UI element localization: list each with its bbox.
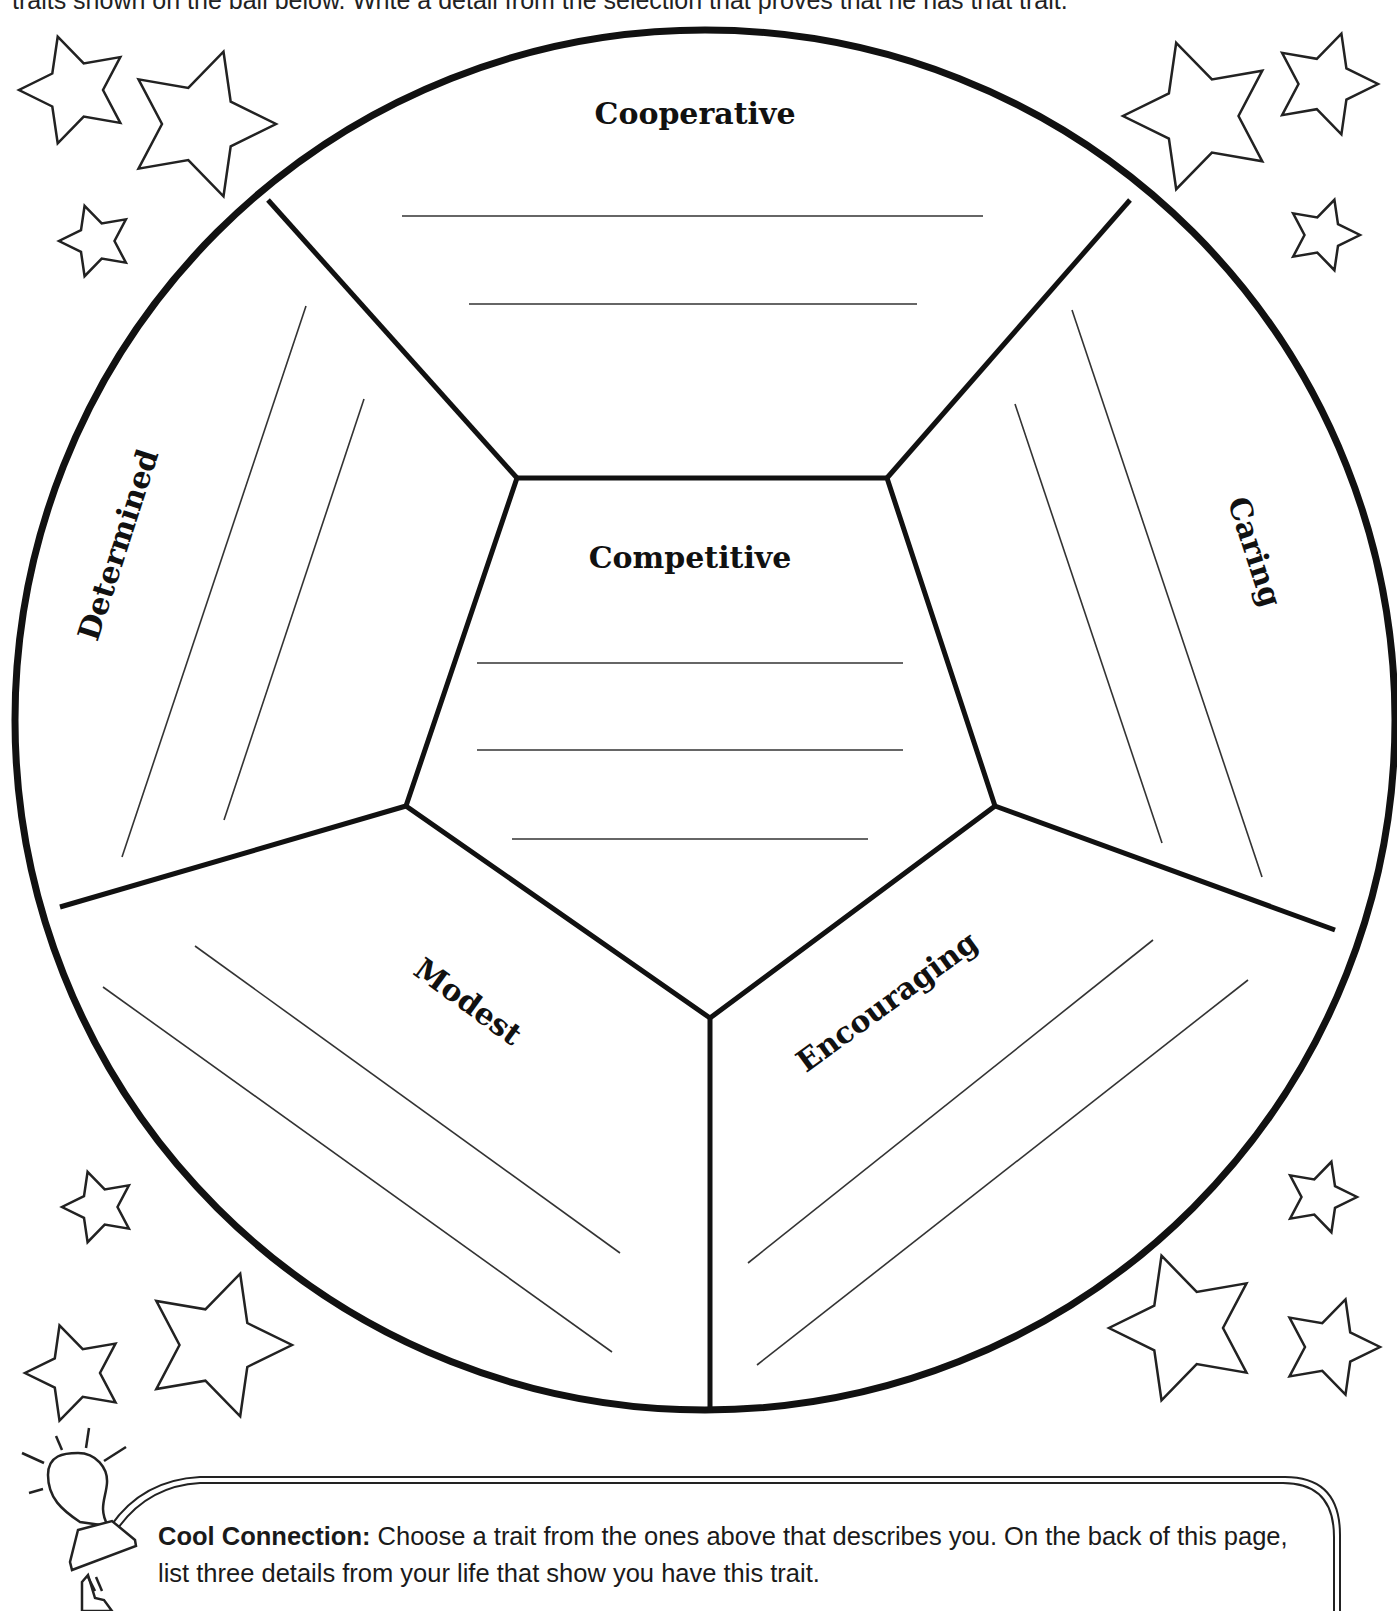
writing-line-caring[interactable] bbox=[1015, 404, 1162, 843]
star-icon bbox=[1123, 43, 1262, 189]
star-icon bbox=[139, 52, 277, 197]
star-icon bbox=[19, 37, 120, 144]
star-icon bbox=[1290, 1162, 1357, 1232]
trait-label-competitive: Competitive bbox=[589, 540, 792, 575]
trait-label-encouraging: Encouraging bbox=[790, 924, 985, 1079]
star-icon bbox=[1109, 1256, 1247, 1401]
star-icon bbox=[1290, 1299, 1381, 1394]
trait-label-cooperative: Cooperative bbox=[595, 96, 796, 131]
writing-line-caring[interactable] bbox=[1072, 310, 1262, 877]
cool-connection-text: Cool Connection: Choose a trait from the… bbox=[158, 1518, 1308, 1592]
seam-line bbox=[268, 200, 517, 478]
star-icon bbox=[1293, 200, 1360, 270]
seam-line bbox=[995, 806, 1335, 930]
trait-ball: CooperativeCompetitiveDeterminedCaringMo… bbox=[15, 30, 1395, 1413]
cool-connection-title: Cool Connection: bbox=[158, 1522, 370, 1550]
writing-line-determined[interactable] bbox=[224, 399, 364, 820]
writing-line-determined[interactable] bbox=[122, 306, 306, 857]
writing-lines bbox=[103, 216, 1262, 1365]
star-icon bbox=[1282, 34, 1378, 135]
trait-labels: CooperativeCompetitiveDeterminedCaringMo… bbox=[71, 96, 1289, 1079]
ball-outline bbox=[15, 30, 1395, 1410]
trait-label-determined: Determined bbox=[71, 445, 166, 645]
star-icon bbox=[156, 1274, 292, 1417]
ball-seams bbox=[60, 200, 1335, 1413]
trait-label-modest: Modest bbox=[408, 951, 529, 1052]
star-icon bbox=[25, 1325, 116, 1420]
star-icon bbox=[62, 1172, 129, 1242]
trait-label-caring: Caring bbox=[1221, 492, 1289, 611]
star-icon bbox=[59, 206, 126, 276]
seam-line bbox=[887, 200, 1130, 478]
trait-ball-worksheet: CooperativeCompetitiveDeterminedCaringMo… bbox=[0, 0, 1397, 1611]
seam-line bbox=[60, 806, 406, 907]
lightbulb-icon bbox=[22, 1428, 136, 1611]
